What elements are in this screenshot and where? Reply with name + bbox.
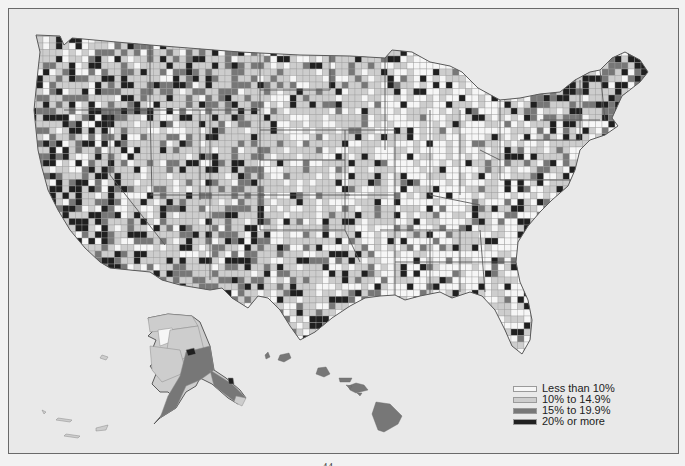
county-cell bbox=[219, 186, 226, 193]
county-cell bbox=[128, 102, 135, 109]
county-cell bbox=[459, 212, 466, 219]
county-cell bbox=[297, 349, 304, 356]
county-cell bbox=[635, 225, 648, 232]
county-cell bbox=[602, 108, 609, 115]
county-cell bbox=[596, 108, 603, 115]
county-cell bbox=[271, 329, 278, 336]
county-cell bbox=[375, 355, 388, 362]
county-cell bbox=[212, 115, 219, 122]
county-cell bbox=[609, 43, 616, 50]
county-cell bbox=[43, 232, 50, 239]
county-cell bbox=[615, 264, 622, 271]
county-cell bbox=[446, 238, 453, 245]
county-cell bbox=[277, 212, 284, 219]
county-cell bbox=[479, 121, 486, 128]
county-cell bbox=[76, 342, 83, 349]
county-cell bbox=[115, 43, 122, 50]
county-cell bbox=[193, 128, 200, 135]
county-cell bbox=[115, 251, 122, 258]
county-cell bbox=[284, 290, 291, 297]
county-cell bbox=[589, 56, 596, 63]
county-cell bbox=[95, 95, 102, 102]
county-cell bbox=[121, 56, 128, 63]
county-cell bbox=[492, 329, 499, 336]
county-cell bbox=[238, 362, 245, 369]
county-cell bbox=[264, 82, 271, 89]
county-cell bbox=[544, 342, 551, 349]
county-cell bbox=[102, 154, 109, 161]
county-cell bbox=[615, 115, 622, 122]
county-cell bbox=[635, 76, 642, 83]
county-cell bbox=[524, 271, 537, 278]
county-cell bbox=[336, 225, 343, 232]
county-cell bbox=[648, 121, 661, 128]
county-cell bbox=[329, 219, 336, 226]
county-cell bbox=[628, 316, 641, 323]
county-cell bbox=[102, 43, 109, 50]
county-cell bbox=[56, 180, 63, 187]
county-cell bbox=[648, 323, 655, 330]
county-cell bbox=[355, 362, 362, 369]
county-cell bbox=[602, 297, 609, 304]
county-cell bbox=[505, 316, 512, 323]
county-cell bbox=[180, 206, 187, 213]
county-cell bbox=[186, 108, 193, 115]
county-cell bbox=[141, 297, 148, 304]
county-cell bbox=[154, 128, 161, 135]
county-cell bbox=[245, 160, 252, 167]
county-cell bbox=[342, 297, 349, 304]
county-cell bbox=[277, 82, 284, 89]
county-cell bbox=[264, 128, 271, 135]
county-cell bbox=[420, 212, 427, 219]
county-cell bbox=[37, 82, 44, 89]
county-cell bbox=[154, 264, 161, 271]
county-cell bbox=[563, 264, 570, 271]
county-cell bbox=[284, 89, 291, 96]
county-cell bbox=[609, 290, 622, 297]
county-cell bbox=[310, 355, 317, 362]
county-cell bbox=[576, 167, 583, 174]
county-cell bbox=[544, 82, 551, 89]
county-cell bbox=[524, 173, 531, 180]
county-cell bbox=[141, 89, 148, 96]
county-cell bbox=[336, 167, 343, 174]
county-cell bbox=[368, 108, 375, 115]
county-cell bbox=[466, 277, 473, 284]
hawaii-island bbox=[348, 383, 368, 393]
county-cell bbox=[531, 76, 538, 83]
county-cell bbox=[147, 167, 154, 174]
county-cell bbox=[544, 316, 557, 323]
county-cell bbox=[297, 173, 304, 180]
county-cell bbox=[550, 30, 557, 37]
county-cell bbox=[37, 245, 44, 252]
county-cell bbox=[563, 349, 570, 356]
county-cell bbox=[30, 297, 37, 304]
county-cell bbox=[550, 232, 557, 239]
county-cell bbox=[43, 108, 50, 115]
county-cell bbox=[375, 297, 382, 304]
county-cell bbox=[336, 69, 343, 76]
county-cell bbox=[212, 95, 219, 102]
county-cell bbox=[186, 128, 193, 135]
county-cell bbox=[446, 277, 453, 284]
county-cell bbox=[446, 251, 453, 258]
county-cell bbox=[362, 323, 369, 330]
county-cell bbox=[544, 102, 551, 109]
county-cell bbox=[284, 251, 291, 258]
county-cell bbox=[50, 277, 57, 284]
county-cell bbox=[602, 329, 609, 336]
county-cell bbox=[316, 303, 323, 310]
county-cell bbox=[407, 69, 414, 76]
county-cell bbox=[134, 277, 141, 284]
county-cell bbox=[414, 108, 421, 115]
county-cell bbox=[557, 147, 564, 154]
county-cell bbox=[635, 180, 642, 187]
county-cell bbox=[303, 63, 310, 70]
county-cell bbox=[446, 89, 453, 96]
county-cell bbox=[466, 362, 473, 369]
county-cell bbox=[89, 310, 96, 317]
county-cell bbox=[323, 89, 330, 96]
county-cell bbox=[401, 167, 408, 174]
county-cell bbox=[225, 329, 232, 336]
county-cell bbox=[576, 102, 583, 109]
